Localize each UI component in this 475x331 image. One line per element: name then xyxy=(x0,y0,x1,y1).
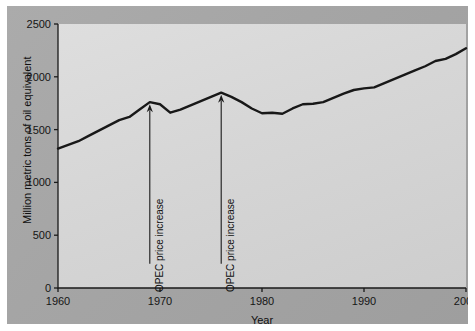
x-axis-label: Year xyxy=(251,314,273,324)
y-tick-label: 500 xyxy=(33,229,51,241)
annotation-label: OPEC price increase xyxy=(225,198,236,291)
y-tick-label: 0 xyxy=(45,282,51,294)
x-tick-label: 1990 xyxy=(352,295,376,307)
x-tick-label: 2000 xyxy=(454,295,468,307)
data-series-line xyxy=(58,48,466,148)
y-axis-label: Million metric tons of oil equivalent xyxy=(21,56,33,224)
chart-canvas: 05001000150020002500 1960197019801990200… xyxy=(7,6,468,324)
chart-figure: 05001000150020002500 1960197019801990200… xyxy=(0,0,475,331)
y-tick-label: 2500 xyxy=(27,18,51,30)
x-tick-label: 1970 xyxy=(148,295,172,307)
annotation-label: OPEC price increase xyxy=(154,198,165,291)
x-tick-label: 1960 xyxy=(46,295,70,307)
axis-ticks xyxy=(54,24,466,292)
axes-and-data xyxy=(7,6,468,324)
x-tick-label: 1980 xyxy=(250,295,274,307)
